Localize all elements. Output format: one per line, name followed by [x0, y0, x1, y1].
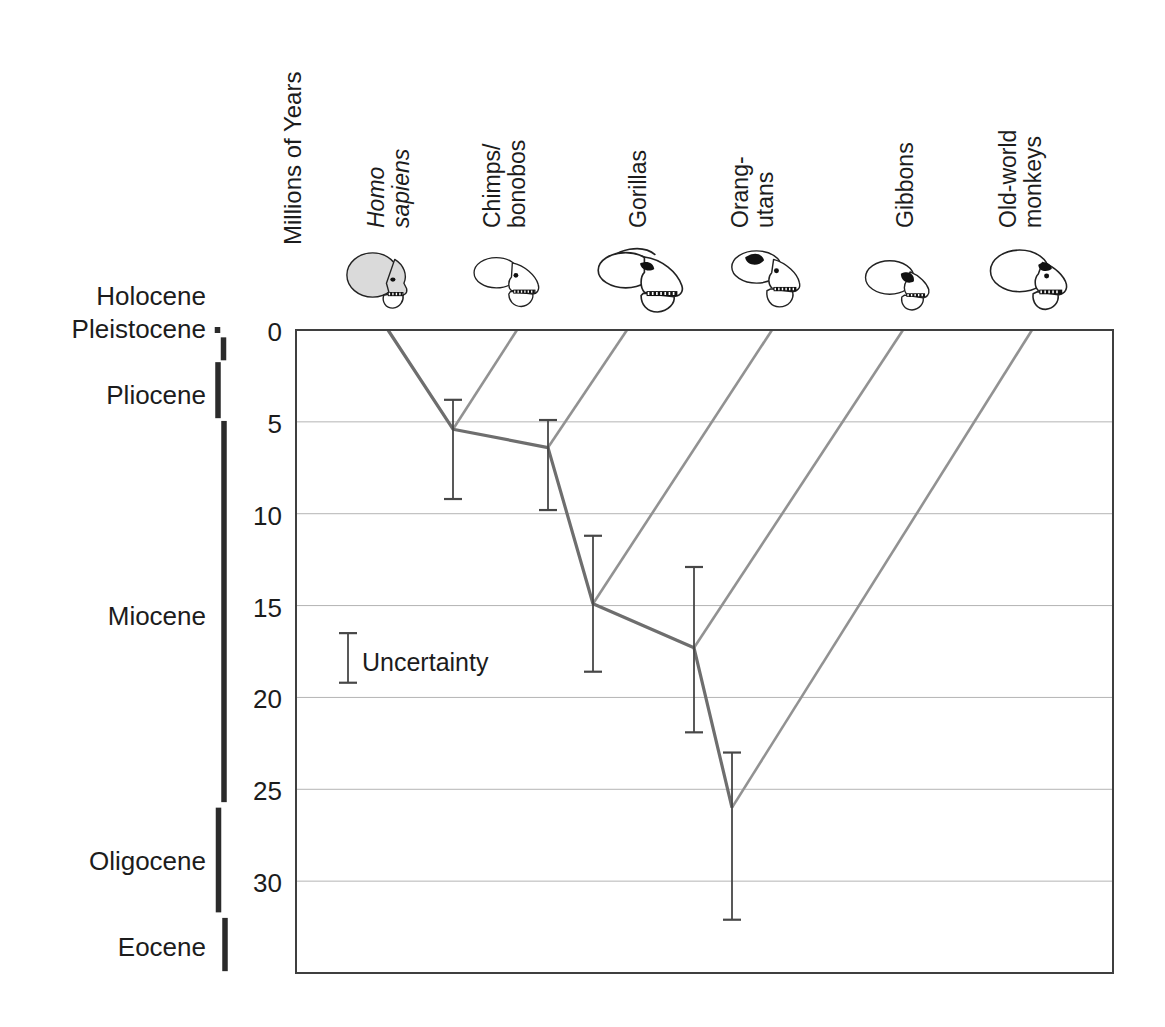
y-tick-5: 5	[222, 409, 282, 439]
y-tick-10: 10	[222, 501, 282, 531]
epoch-label-eocene: Eocene	[26, 932, 206, 962]
y-axis-title: Millions of Years	[280, 72, 306, 245]
taxon-label-orang-utans: Orang- utans	[728, 156, 778, 228]
y-tick-30: 30	[222, 868, 282, 898]
epoch-label-miocene: Miocene	[26, 601, 206, 631]
y-tick-0: 0	[222, 317, 282, 347]
label-layer: Millions of Years Uncertainty 0510152025…	[0, 0, 1165, 1027]
taxon-label-old-world-monkeys: Old-world monkeys	[996, 130, 1046, 228]
y-tick-20: 20	[222, 684, 282, 714]
epoch-label-holocene: Holocene	[26, 281, 206, 311]
epoch-label-pleistocene: Pleistocene	[26, 314, 206, 344]
taxon-label-gibbons: Gibbons	[893, 142, 918, 228]
taxon-label-homo-sapiens: Homo sapiens	[364, 149, 414, 228]
taxon-label-gorillas: Gorillas	[626, 150, 651, 228]
y-tick-15: 15	[222, 593, 282, 623]
y-tick-25: 25	[222, 776, 282, 806]
uncertainty-legend-label: Uncertainty	[362, 647, 488, 677]
epoch-label-oligocene: Oligocene	[26, 846, 206, 876]
figure: Millions of Years Uncertainty 0510152025…	[0, 0, 1165, 1027]
taxon-label-chimps-bonobos: Chimps/ bonobos	[480, 140, 530, 228]
epoch-label-pliocene: Pliocene	[26, 380, 206, 410]
